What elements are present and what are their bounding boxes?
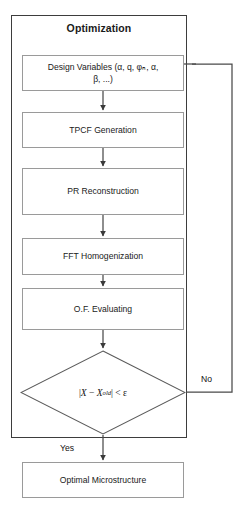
page-title: Optimization [11,22,187,34]
edge-label-no: No [199,374,214,384]
edge-label-yes: Yes [58,443,76,453]
design-variables-line2: β, ...) [93,74,113,84]
node-of-evaluating-label: O.F. Evaluating [28,303,178,315]
node-tpcf-generation[interactable]: TPCF Generation [22,112,184,148]
node-optimal-microstructure-label: Optimal Microstructure [28,474,178,486]
node-convergence-check[interactable]: |X − Xold| < ε [20,350,186,435]
design-variables-line1: Design Variables (α, q, φₙ, α, [48,62,159,72]
node-design-variables-label: Design Variables (α, q, φₙ, α, β, ...) [28,61,178,86]
node-fft-homogenization[interactable]: FFT Homogenization [22,238,184,275]
diamond-shape [20,350,186,435]
node-design-variables[interactable]: Design Variables (α, q, φₙ, α, β, ...) [22,55,184,91]
node-of-evaluating[interactable]: O.F. Evaluating [22,288,184,330]
node-fft-homogenization-label: FFT Homogenization [28,250,178,262]
node-pr-reconstruction-label: PR Reconstruction [28,185,178,197]
node-pr-reconstruction[interactable]: PR Reconstruction [22,168,184,215]
node-tpcf-generation-label: TPCF Generation [28,124,178,136]
flowchart-canvas: Optimization Design Vari [0,0,243,508]
node-optimal-microstructure[interactable]: Optimal Microstructure [22,462,184,498]
